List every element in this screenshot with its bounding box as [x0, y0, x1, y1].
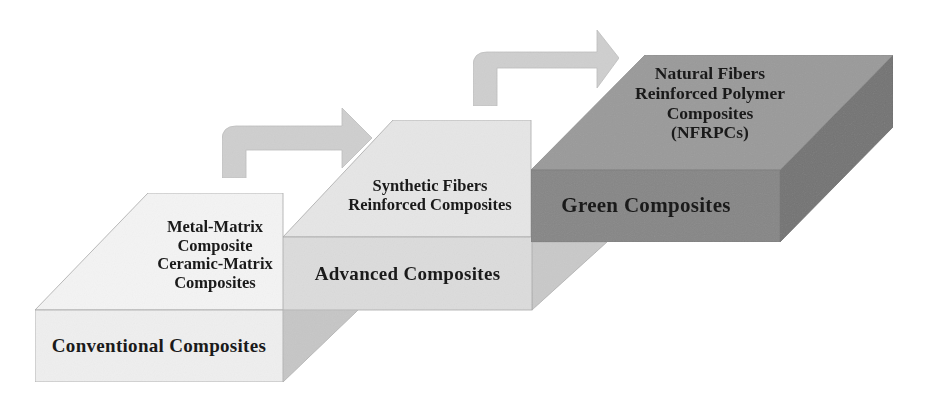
advanced-composites-label: Advanced Composites [283, 263, 532, 284]
green-top-label: Natural Fibers Reinforced Polymer Compos… [610, 64, 810, 143]
advanced-top-line: Reinforced Composites [335, 196, 525, 215]
green-top-line: (NFRPCs) [610, 123, 810, 143]
green-top-line: Composites [610, 104, 810, 124]
composites-evolution-diagram: Metal-Matrix Composite Ceramic-Matrix Co… [0, 0, 925, 405]
curved-right-arrow-icon [473, 30, 619, 106]
conventional-top-label: Metal-Matrix Composite Ceramic-Matrix Co… [130, 218, 300, 293]
green-top-line: Natural Fibers [610, 64, 810, 84]
conventional-top-line: Composites [130, 274, 300, 293]
advanced-top-line: Synthetic Fibers [335, 177, 525, 196]
green-composites-label: Green Composites [531, 194, 761, 218]
conventional-composites-label: Conventional Composites [35, 335, 283, 356]
conventional-top-line: Composite [130, 237, 300, 256]
conventional-top-line: Metal-Matrix [130, 218, 300, 237]
green-top-line: Reinforced Polymer [610, 84, 810, 104]
advanced-top-label: Synthetic Fibers Reinforced Composites [335, 177, 525, 214]
conventional-top-line: Ceramic-Matrix [130, 255, 300, 274]
